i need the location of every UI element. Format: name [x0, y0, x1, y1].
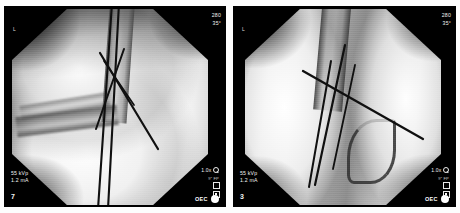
- fluoro-image-container-left: [4, 6, 226, 207]
- fluoro-image-container-right: [233, 6, 456, 207]
- frame-number-right: 3: [240, 192, 244, 202]
- k-wire-overlay-left: [12, 9, 208, 205]
- save-icon[interactable]: [213, 182, 220, 189]
- vendor-dot-icon: [211, 195, 219, 203]
- technique-readout-right: 55 kVp 1.2 mA: [240, 170, 258, 185]
- vendor-label-left: OEC: [195, 196, 208, 202]
- magnification-readout-left[interactable]: 1.0x: [201, 167, 219, 174]
- vendor-badge-right: OEC: [425, 195, 449, 203]
- orientation-readout-right: 280 35°: [442, 12, 451, 27]
- magnifier-icon: [213, 167, 219, 173]
- fluoroscopy-dual-viewer: L 280 35° 55 kVp 1.2 mA 7 1.0x 9″ FP OEC: [0, 0, 460, 213]
- k-wire-overlay-right: [245, 9, 441, 205]
- vendor-badge-left: OEC: [195, 195, 219, 203]
- technique-readout-left: 55 kVp 1.2 mA: [11, 170, 29, 185]
- side-marker-right: L: [242, 26, 245, 33]
- vendor-label-right: OEC: [425, 196, 438, 202]
- save-icon[interactable]: [443, 182, 450, 189]
- magnification-value-left: 1.0x: [201, 167, 211, 174]
- frame-number-left: 7: [11, 192, 15, 202]
- vendor-dot-icon: [441, 195, 449, 203]
- fluoro-image-right: [245, 9, 441, 205]
- magnification-readout-right[interactable]: 1.0x: [431, 167, 449, 174]
- fluoro-panel-left[interactable]: L 280 35° 55 kVp 1.2 mA 7 1.0x 9″ FP OEC: [4, 6, 226, 207]
- fluoro-panel-right[interactable]: L 280 35° 55 kVp 1.2 mA 3 1.0x 9″ FP OEC: [233, 6, 456, 207]
- orientation-readout-left: 280 35°: [212, 12, 221, 27]
- magnification-value-right: 1.0x: [431, 167, 441, 174]
- magnifier-icon: [443, 167, 449, 173]
- fluoro-image-left: [12, 9, 208, 205]
- side-marker-left: L: [13, 26, 16, 33]
